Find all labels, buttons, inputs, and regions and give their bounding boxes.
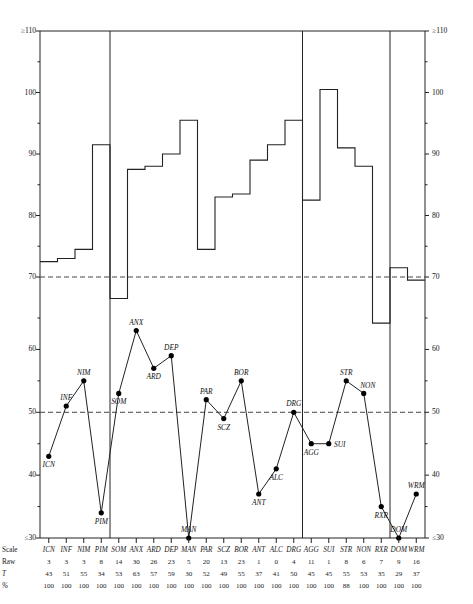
lower-axis-label-right: 40 (432, 470, 440, 479)
table-cell-raw-scz: 13 (220, 558, 227, 566)
table-cell-pct-dep: 100 (166, 582, 177, 590)
table-cell-scale-wrm: WRM (408, 546, 424, 554)
point-label-man: MAN (181, 525, 197, 534)
data-point-dep[interactable] (169, 353, 174, 358)
lower-axis-label-left: 40 (2, 470, 36, 479)
table-cell-t-bor: 55 (238, 570, 245, 578)
table-cell-pct-alc: 100 (271, 582, 282, 590)
upper-axis-label-right: 100 (432, 88, 443, 97)
table-cell-pct-ant: 100 (254, 582, 265, 590)
table-cell-t-ant: 37 (255, 570, 262, 578)
point-label-bor: BOR (234, 368, 248, 377)
data-point-anx[interactable] (134, 328, 139, 333)
point-label-wrm: WRM (408, 481, 425, 490)
table-cell-pct-drg: 100 (289, 582, 300, 590)
data-point-drg[interactable] (291, 410, 296, 415)
table-cell-t-rxr: 35 (378, 570, 385, 578)
point-label-dep: DEP (164, 343, 178, 352)
table-cell-t-inf: 51 (63, 570, 70, 578)
table-cell-raw-alc: 0 (275, 558, 279, 566)
data-point-alc[interactable] (274, 466, 279, 471)
upper-axis-label-left: 100 (2, 88, 36, 97)
point-label-sui: SUI (334, 440, 346, 449)
table-cell-pct-par: 100 (201, 582, 212, 590)
table-cell-raw-wrm: 16 (413, 558, 420, 566)
table-cell-t-sui: 45 (325, 570, 332, 578)
table-cell-pct-dom: 100 (394, 582, 405, 590)
table-cell-pct-agg: 100 (306, 582, 317, 590)
data-point-par[interactable] (204, 397, 209, 402)
point-label-ant: ANT (252, 498, 266, 507)
data-point-non[interactable] (361, 391, 366, 396)
table-cell-scale-drg: DRG (286, 546, 301, 554)
table-cell-scale-pim: PIM (95, 546, 108, 554)
table-cell-scale-alc: ALC (270, 546, 283, 554)
table-cell-t-wrm: 37 (413, 570, 420, 578)
table-cell-t-pim: 34 (98, 570, 105, 578)
point-label-nim: NIM (77, 368, 91, 377)
table-cell-scale-rxr: RXR (375, 546, 388, 554)
table-cell-raw-dep: 23 (168, 558, 175, 566)
point-label-som: SOM (111, 397, 126, 406)
lower-axis-label-left: 50 (2, 407, 36, 416)
data-point-rxr[interactable] (379, 504, 384, 509)
data-point-str[interactable] (344, 378, 349, 383)
table-cell-scale-bor: BOR (234, 546, 248, 554)
table-cell-scale-ard: ARD (147, 546, 161, 554)
table-cell-pct-som: 100 (114, 582, 125, 590)
point-label-dom: DOM (390, 525, 407, 534)
data-point-som[interactable] (116, 391, 121, 396)
table-cell-scale-nim: NIM (77, 546, 90, 554)
upper-axis-label-left: ≥110 (2, 26, 36, 35)
table-cell-scale-non: NON (356, 546, 371, 554)
table-cell-t-dom: 29 (395, 570, 402, 578)
table-cell-scale-str: STR (340, 546, 352, 554)
point-label-rxr: RXR (374, 511, 388, 520)
data-point-bor[interactable] (239, 378, 244, 383)
table-cell-pct-man: 100 (184, 582, 195, 590)
table-cell-raw-bor: 23 (238, 558, 245, 566)
table-cell-pct-str: 88 (343, 582, 350, 590)
table-cell-pct-inf: 100 (61, 582, 72, 590)
table-cell-t-agg: 45 (308, 570, 315, 578)
table-cell-raw-som: 14 (115, 558, 122, 566)
point-label-par: PAR (200, 387, 213, 396)
data-point-pim[interactable] (99, 510, 104, 515)
point-label-str: STR (340, 368, 352, 377)
upper-axis-label-right: 70 (432, 272, 440, 281)
table-cell-pct-nim: 100 (79, 582, 90, 590)
lower-axis-label-left: 60 (2, 344, 36, 353)
table-cell-scale-anx: ANX (129, 546, 143, 554)
point-label-scz: SCZ (217, 423, 230, 432)
data-point-sui[interactable] (326, 441, 331, 446)
table-cell-raw-icn: 3 (47, 558, 51, 566)
table-cell-raw-anx: 30 (133, 558, 140, 566)
data-point-icn[interactable] (46, 454, 51, 459)
lower-axis-label-right: ≤30 (432, 533, 444, 542)
upper-axis-label-right: ≥110 (432, 26, 447, 35)
data-point-inf[interactable] (64, 403, 69, 408)
data-point-wrm[interactable] (414, 491, 419, 496)
table-cell-pct-wrm: 100 (411, 582, 422, 590)
data-point-nim[interactable] (81, 378, 86, 383)
table-cell-t-anx: 63 (133, 570, 140, 578)
lower-axis-label-right: 60 (432, 344, 440, 353)
data-point-ant[interactable] (256, 491, 261, 496)
table-row-label-t: T (2, 570, 6, 578)
table-cell-t-icn: 43 (45, 570, 52, 578)
data-point-agg[interactable] (309, 441, 314, 446)
table-cell-pct-bor: 100 (236, 582, 247, 590)
data-point-ard[interactable] (151, 366, 156, 371)
upper-axis-label-left: 70 (2, 272, 36, 281)
table-cell-raw-str: 8 (345, 558, 349, 566)
table-cell-scale-ant: ANT (252, 546, 265, 554)
table-cell-raw-agg: 11 (308, 558, 315, 566)
table-cell-raw-non: 6 (362, 558, 366, 566)
table-cell-scale-som: SOM (111, 546, 126, 554)
percentile-step-line (40, 89, 425, 323)
table-row-label-pct: % (2, 582, 8, 590)
table-cell-pct-rxr: 100 (376, 582, 387, 590)
table-cell-t-par: 52 (203, 570, 210, 578)
profile-plot (0, 0, 473, 604)
data-point-scz[interactable] (221, 416, 226, 421)
